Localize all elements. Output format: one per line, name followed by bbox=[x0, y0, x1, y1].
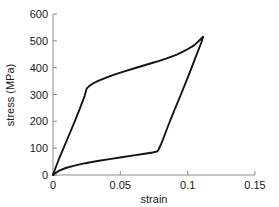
loading-branch-curve bbox=[53, 37, 203, 175]
unloading-branch-curve bbox=[53, 37, 203, 175]
y-tick-label-500: 500 bbox=[30, 35, 48, 47]
y-tick-label-300: 300 bbox=[30, 89, 48, 101]
plot-canvas: 0 100 200 300 400 500 600 0 0.05 0.1 0.1… bbox=[0, 0, 279, 207]
y-tick-label-600: 600 bbox=[30, 8, 48, 20]
y-tick-label-0: 0 bbox=[42, 169, 48, 181]
x-tick-label-0: 0 bbox=[50, 179, 56, 191]
y-tick-label-100: 100 bbox=[30, 142, 48, 154]
stress-strain-chart: 0 100 200 300 400 500 600 0 0.05 0.1 0.1… bbox=[0, 0, 279, 207]
x-tick-label-005: 0.05 bbox=[110, 179, 131, 191]
x-axis-title: strain bbox=[141, 193, 168, 205]
y-tick-label-200: 200 bbox=[30, 115, 48, 127]
y-tick-label-400: 400 bbox=[30, 62, 48, 74]
y-axis-title: stress (MPa) bbox=[4, 64, 16, 126]
x-tick-label-01: 0.1 bbox=[180, 179, 195, 191]
x-tick-label-015: 0.15 bbox=[244, 179, 265, 191]
